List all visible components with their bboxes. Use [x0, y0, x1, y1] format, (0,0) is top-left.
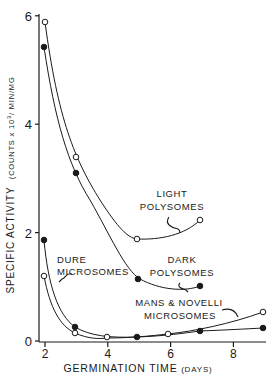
dure-microsomes-point	[72, 324, 78, 330]
mans-novelli-pointer	[222, 309, 238, 317]
mans-novelli-point	[165, 331, 171, 337]
dure-microsomes-label-line2: MICROSOMES	[57, 266, 129, 277]
light-polysomes-pointer	[167, 217, 180, 233]
dure-microsomes-point	[41, 237, 47, 243]
x-ticks: 2468	[42, 342, 237, 361]
dark-polysomes-pointer	[179, 283, 188, 292]
light-polysomes-label-line2: POLYSOMES	[140, 201, 204, 212]
dark-polysomes-label-line2: POLYSOMES	[150, 267, 214, 278]
light-polysomes-point	[73, 154, 79, 160]
dure-microsomes-point	[197, 328, 203, 334]
light-polysomes-point	[134, 236, 140, 242]
x-tick-label: 6	[167, 347, 174, 361]
mans-novelli-label-line2: MICROSOMES	[144, 310, 216, 321]
light-polysomes-point	[42, 19, 48, 25]
dark-polysomes-point	[197, 283, 203, 289]
light-polysomes-point	[197, 217, 203, 223]
y-axis-label: SPECIFIC ACTIVITY (COUNTS x 103/ MIN/MG	[5, 76, 16, 293]
mans-novelli-point	[104, 334, 110, 340]
y-tick-label: 0	[25, 334, 32, 349]
dark-polysomes-point	[73, 170, 79, 176]
dark-polysomes-label-line1: DARK	[168, 254, 197, 265]
x-axis-label: GERMINATION TIME (DAYS)	[64, 362, 213, 374]
x-tick-label: 4	[104, 347, 111, 361]
dark-polysomes-point	[41, 44, 47, 50]
annotation-labels: LIGHT POLYSOMES DARK POLYSOMES DURE MICR…	[57, 188, 223, 321]
mans-novelli-label-line1: MANS & NOVELLI	[135, 297, 223, 308]
dark-polysomes-point	[135, 276, 141, 282]
markers	[41, 19, 266, 340]
y-ticks: 0246	[25, 9, 39, 349]
axes	[39, 14, 266, 342]
x-tick-label: 2	[42, 347, 49, 361]
dure-microsomes-point	[134, 334, 140, 340]
light-polysomes-label-line1: LIGHT	[157, 188, 188, 199]
y-tick-label: 6	[25, 9, 32, 24]
line-chart: 0246 2468	[0, 0, 277, 381]
y-tick-label: 4	[25, 117, 32, 132]
y-tick-label: 2	[25, 226, 32, 241]
mans-novelli-point	[72, 330, 78, 336]
dark-polysomes-curve	[44, 47, 200, 289]
dure-microsomes-point	[260, 325, 266, 331]
curves	[44, 22, 263, 338]
mans-novelli-point	[260, 309, 266, 315]
dure-microsomes-label-line1: DURE	[57, 254, 86, 265]
x-tick-label: 8	[230, 347, 237, 361]
mans-novelli-point	[41, 273, 47, 279]
